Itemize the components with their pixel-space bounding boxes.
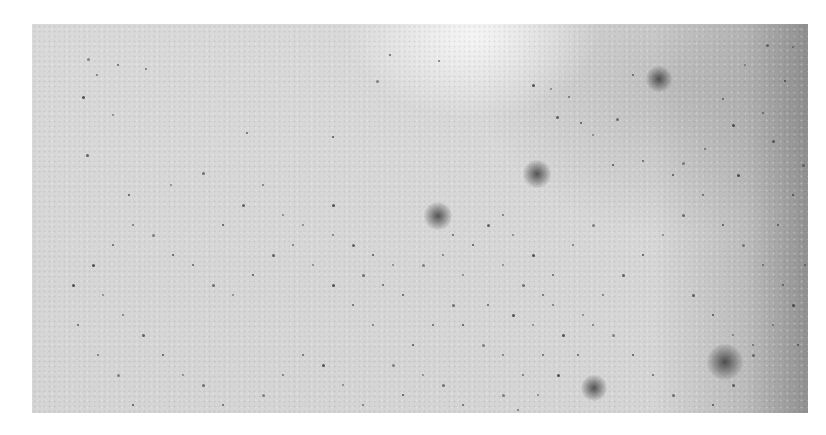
small-dot [86,154,89,157]
small-dot [352,244,355,247]
small-dot [252,274,254,276]
small-dot [704,148,706,150]
small-dot [792,304,795,307]
small-dot [804,264,806,266]
small-dot [784,80,786,82]
small-dot [452,234,454,236]
small-dot [582,314,584,316]
small-dot [762,264,764,266]
small-dot [282,374,284,376]
small-dot [552,274,554,276]
small-dot [762,112,764,114]
small-dot [682,162,685,165]
small-dot [542,354,544,356]
small-dot [82,96,85,99]
small-dot [332,284,335,287]
small-dot [472,244,474,246]
small-dot [642,160,644,162]
small-dot [302,354,304,356]
small-dot [96,74,98,76]
small-dot [112,244,114,246]
small-dot [170,184,172,186]
small-dot [522,284,525,287]
small-dot [332,136,334,138]
small-dot [392,364,395,367]
small-dot [402,294,404,296]
small-dot [132,404,134,406]
small-dot [732,384,735,387]
small-dot [422,264,425,267]
small-dot [376,80,379,83]
small-dot [652,374,654,376]
small-dot [622,274,625,277]
small-dot [402,394,404,396]
small-dot [602,294,604,296]
small-dot [122,314,124,316]
small-dot [87,58,90,61]
small-dot [537,394,539,396]
small-dot [592,324,594,326]
small-dot [487,304,489,306]
small-dot [532,254,535,257]
small-dot [732,334,734,336]
dark-spot [424,202,452,230]
small-dot [302,224,304,226]
small-dot [577,354,579,356]
small-dot [632,354,634,356]
small-dot [702,194,704,196]
small-dot [352,304,354,306]
small-dot [792,194,794,196]
small-dot [632,74,634,76]
small-dot [580,122,582,124]
small-dot [642,254,644,256]
small-dot [672,174,674,176]
small-dot [262,394,265,397]
small-dot [202,172,205,175]
small-dot [72,284,75,287]
dark-spot [707,344,743,380]
small-dot [522,374,524,376]
small-dot [550,88,552,90]
small-dot [172,254,174,256]
small-dot [792,46,794,48]
dark-spot [646,66,672,92]
small-dot [732,124,735,127]
small-dot [712,314,714,316]
small-dot [102,294,104,296]
small-dot [246,132,248,134]
small-dot [462,404,464,406]
small-dot [572,244,574,246]
small-dot [556,116,559,119]
small-dot [722,98,724,100]
small-dot [438,60,440,62]
small-dot [568,96,570,98]
small-dot [772,324,774,326]
small-dot [332,204,335,207]
small-dot [322,364,325,367]
small-dot [766,44,769,47]
small-dot [272,254,275,257]
small-dot [462,324,464,326]
small-dot [342,384,344,386]
small-dot [772,140,775,143]
small-dot [382,284,384,286]
surface-texture [32,24,808,413]
small-dot [487,224,490,227]
small-dot [282,214,284,216]
small-dot [612,164,614,166]
small-dot [557,374,560,377]
small-dot [442,384,445,387]
small-dot [132,224,134,226]
small-dot [482,344,485,347]
small-dot [712,404,714,406]
dark-spot [581,375,607,401]
small-dot [612,334,615,337]
small-dot [192,264,194,266]
small-dot [182,374,184,376]
small-dot [532,324,534,326]
small-dot [389,54,391,56]
small-dot [512,234,514,236]
small-dot [737,174,740,177]
small-dot [802,164,805,167]
small-dot [117,374,120,377]
